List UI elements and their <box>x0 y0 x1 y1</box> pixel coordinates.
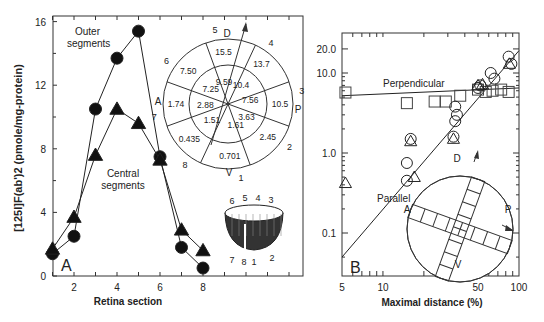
data-point <box>503 51 514 62</box>
outer-ring-value: 7.50 <box>180 66 197 76</box>
data-point <box>339 177 351 187</box>
y-tick-label: 0.1 <box>322 228 336 239</box>
data-point <box>111 52 123 64</box>
dir-label-a: A <box>155 96 162 107</box>
cup-label: 3 <box>268 195 273 205</box>
outer-ring-value: 2.45 <box>260 132 277 142</box>
y-tick-label: 20.0 <box>317 44 337 55</box>
panel-a-series <box>45 25 210 274</box>
outer-ring-value: 15.5 <box>215 47 232 57</box>
outer-ring-value: 1.74 <box>168 99 185 109</box>
x-tick-label: 8 <box>200 282 206 293</box>
data-point <box>455 90 466 101</box>
cross-inset: DPVA <box>404 150 514 282</box>
polar-inset: 0.7012.4510.513.715.57.501.740.4351.613.… <box>152 22 305 183</box>
data-point <box>176 241 188 253</box>
panel-b-xlabel: Maximal distance (%) <box>381 297 482 308</box>
cross-dir-a: A <box>404 204 411 215</box>
sector-number: 7 <box>152 112 157 122</box>
sector-number: 6 <box>164 56 169 66</box>
sector-number: 4 <box>269 38 274 48</box>
inner-ring-value: 7.25 <box>202 84 219 94</box>
outer-segments-label-1: Outer <box>75 26 101 37</box>
inner-ring-value: 1.51 <box>204 115 221 125</box>
panel-a: 04812162468 [125I]F(ab')2 (pmole/mg-prot… <box>12 16 304 307</box>
outer-ring-value: 13.7 <box>253 59 270 69</box>
y-tick-label: 4 <box>40 207 46 218</box>
outer-segments-label-2: segments <box>67 38 110 49</box>
central-segments-label-2: segments <box>101 180 144 191</box>
cross-dir-p: P <box>505 204 512 215</box>
dir-label-d: D <box>223 28 230 39</box>
dir-label-p: P <box>295 104 302 115</box>
data-point <box>45 242 59 254</box>
inner-ring-value: 7.56 <box>242 95 259 105</box>
dir-label-v: V <box>226 167 233 178</box>
parallel-label: Parallel <box>377 193 410 204</box>
sector-number: 5 <box>212 25 217 35</box>
data-point <box>197 262 209 274</box>
cup-label: 2 <box>269 253 274 263</box>
x-tick-label: 100 <box>511 282 528 293</box>
fit-line <box>342 88 519 96</box>
outer-ring-value: 10.5 <box>272 99 289 109</box>
perpendicular-label: Perpendicular <box>383 78 445 89</box>
panel-b-letter: B <box>350 259 361 276</box>
sector-number: 3 <box>299 86 304 96</box>
outer-ring-value: 0.435 <box>179 134 201 144</box>
data-point <box>401 157 412 168</box>
central-segments-label-1: Central <box>107 168 139 179</box>
cup-label: 1 <box>251 257 256 267</box>
panel-b: 0.11.010.020.051050100 Maximal distance … <box>317 33 528 308</box>
sector-number: 2 <box>287 142 292 152</box>
y-tick-label: 1.0 <box>322 148 336 159</box>
panel-a-ylabel: [125I]F(ab')2 (pmole/mg-protein) <box>12 64 24 232</box>
y-tick-label: 12 <box>35 80 47 91</box>
inner-ring-value: 2.88 <box>197 100 214 110</box>
y-tick-label: 0 <box>40 271 46 282</box>
x-tick-label: 2 <box>71 282 77 293</box>
inner-ring-value: 10.4 <box>233 80 250 90</box>
data-point <box>451 109 462 120</box>
cup-label: 7 <box>229 255 234 265</box>
cross-dir-d: D <box>453 153 460 164</box>
y-tick-label: 16 <box>35 17 47 28</box>
data-point <box>67 210 81 222</box>
sector-number: 8 <box>182 160 187 170</box>
data-point <box>110 102 124 114</box>
cup-label: 5 <box>242 193 247 203</box>
data-point <box>496 84 507 95</box>
outer-ring-value: 0.701 <box>219 151 241 161</box>
data-point <box>133 25 145 37</box>
x-tick-label: 6 <box>157 282 163 293</box>
inner-ring-value: 3.63 <box>238 112 255 122</box>
y-tick-label: 10.0 <box>317 68 337 79</box>
data-point <box>131 116 145 128</box>
data-point <box>401 98 412 109</box>
sector-number: 1 <box>239 173 244 183</box>
figure: 04812162468 [125I]F(ab')2 (pmole/mg-prot… <box>0 0 544 322</box>
cup-label: 8 <box>241 257 246 267</box>
cup-inset: 65437812 <box>225 193 283 267</box>
data-point <box>88 148 102 160</box>
panel-a-xlabel: Retina section <box>94 296 162 307</box>
cup-label: 4 <box>255 193 260 203</box>
y-tick-label: 8 <box>40 144 46 155</box>
x-tick-label: 10 <box>377 282 389 293</box>
panel-a-letter: A <box>61 257 72 274</box>
cross-dir-v: V <box>455 259 462 270</box>
cup-label: 6 <box>229 196 234 206</box>
data-point <box>68 230 80 242</box>
data-point <box>90 103 102 115</box>
x-tick-label: 4 <box>114 282 120 293</box>
x-tick-label: 5 <box>339 282 345 293</box>
data-point <box>429 96 440 107</box>
x-tick-label: 50 <box>472 282 484 293</box>
